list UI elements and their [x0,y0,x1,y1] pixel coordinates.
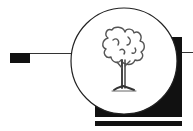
bottom-bar [95,121,182,126]
tree-emblem-logo [0,0,193,131]
left-block [10,53,30,63]
emblem-circle [71,8,177,114]
